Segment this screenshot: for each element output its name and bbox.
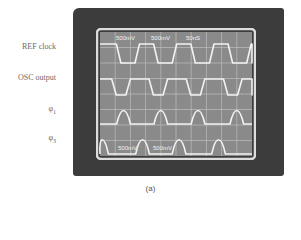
channel-label: REF clock	[22, 42, 56, 51]
readout-bottom: 500mV	[118, 145, 137, 151]
channel-label: φ3	[48, 133, 56, 144]
readout-bottom: 500mV	[153, 145, 172, 151]
figure-caption: (a)	[0, 184, 301, 193]
channel-label: OSC output	[18, 73, 56, 82]
readout-top: 50nS	[186, 35, 200, 41]
readout-top: 500mV	[151, 35, 170, 41]
oscilloscope-screen: 500mV500mV50nS500mV500mV	[96, 28, 256, 160]
channel-label: φ1	[48, 104, 56, 115]
readout-top: 500mV	[116, 35, 135, 41]
